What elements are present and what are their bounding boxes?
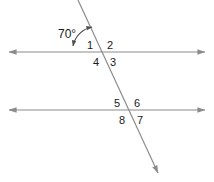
angle-measure-label: 70° [58,27,76,41]
angle-label-6: 6 [134,97,140,109]
angle-label-5: 5 [114,97,120,109]
geometry-diagram: 70° 1 2 3 4 5 6 7 8 [0,0,214,182]
geometry-canvas: 70° 1 2 3 4 5 6 7 8 [0,0,214,182]
transversal-line [78,0,158,173]
angle-label-4: 4 [93,56,99,68]
angle-label-7: 7 [137,114,143,126]
angle-label-2: 2 [107,39,113,51]
angle-label-1: 1 [87,39,93,51]
angle-label-3: 3 [110,56,116,68]
angle-label-8: 8 [119,114,125,126]
